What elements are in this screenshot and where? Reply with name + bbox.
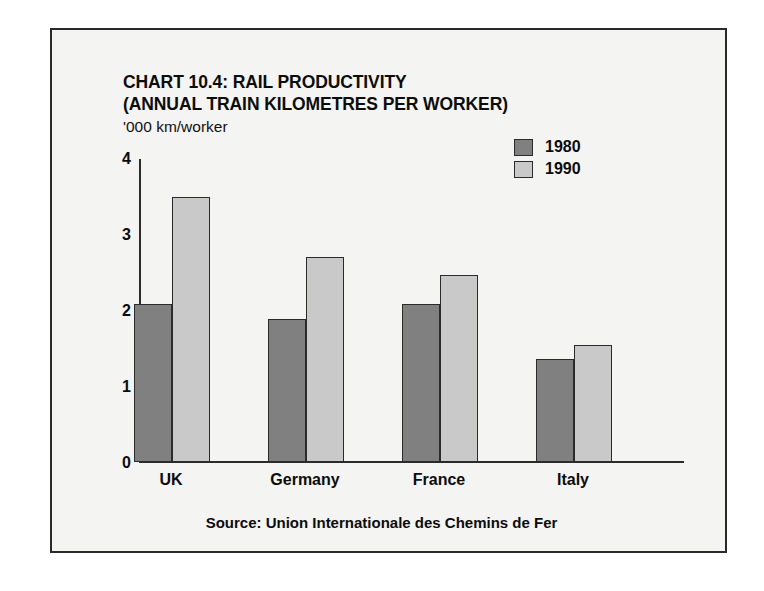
bar-uk-1980 (134, 304, 172, 462)
category-label-uk: UK (101, 471, 241, 489)
y-tick-label: 3 (97, 227, 131, 243)
bar-italy-1980 (536, 359, 574, 462)
source-note: Source: Union Internationale des Chemins… (52, 514, 729, 531)
bar-italy-1990 (574, 345, 612, 462)
y-tick-label: 0 (97, 455, 131, 471)
bar-uk-1990 (172, 197, 210, 462)
category-label-italy: Italy (503, 471, 643, 489)
bar-france-1990 (440, 275, 478, 462)
bar-germany-1990 (306, 257, 344, 462)
plot-area: 4 3 2 1 0 UK Germany France Italy (52, 30, 729, 555)
y-tick-label: 1 (97, 379, 131, 395)
bar-germany-1980 (268, 319, 306, 462)
chart-frame: CHART 10.4: RAIL PRODUCTIVITY (ANNUAL TR… (50, 28, 727, 553)
bar-france-1980 (402, 304, 440, 462)
y-tick-label: 2 (97, 303, 131, 319)
category-label-germany: Germany (235, 471, 375, 489)
category-label-france: France (369, 471, 509, 489)
y-tick-label: 4 (97, 151, 131, 167)
